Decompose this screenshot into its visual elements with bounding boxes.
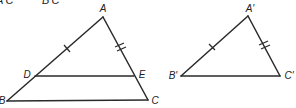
double-tick-mark-a-prime-c-prime	[259, 41, 270, 49]
label-vertex-b: B	[0, 96, 5, 106]
label-vertex-b-prime: B'	[169, 71, 178, 81]
double-tick-mark-ae	[115, 43, 126, 51]
similar-triangles-figure: A'C' B'C'	[0, 0, 296, 108]
label-vertex-a-prime: A'	[246, 4, 255, 14]
edge-a-prime-b-prime	[181, 16, 248, 76]
label-vertex-a: A	[100, 4, 107, 14]
top-text-b-prime-c-prime: B'C'	[42, 0, 61, 6]
label-vertex-c: C	[151, 96, 158, 106]
edge-ab	[7, 17, 103, 101]
triangles-drawing	[0, 0, 296, 108]
edge-ac	[103, 17, 148, 100]
label-point-d: D	[23, 70, 30, 80]
label-point-e: E	[139, 70, 146, 80]
top-text-a-prime-c-prime: A'C'	[0, 0, 15, 6]
triangle-a-prime-b-prime-c-prime	[181, 16, 280, 76]
edge-a-prime-c-prime	[248, 16, 280, 76]
label-vertex-c-prime: C'	[284, 71, 293, 81]
edge-bc	[7, 100, 148, 101]
triangle-abc	[7, 17, 148, 101]
